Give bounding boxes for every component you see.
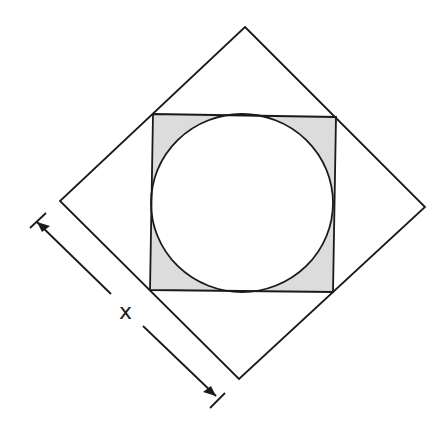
dimension-label: x bbox=[119, 299, 132, 324]
inscribed-circle bbox=[151, 114, 333, 292]
arrowhead-top-icon bbox=[37, 222, 50, 232]
arrowhead-bottom-icon bbox=[203, 386, 216, 396]
geometry-diagram: x bbox=[0, 0, 445, 429]
